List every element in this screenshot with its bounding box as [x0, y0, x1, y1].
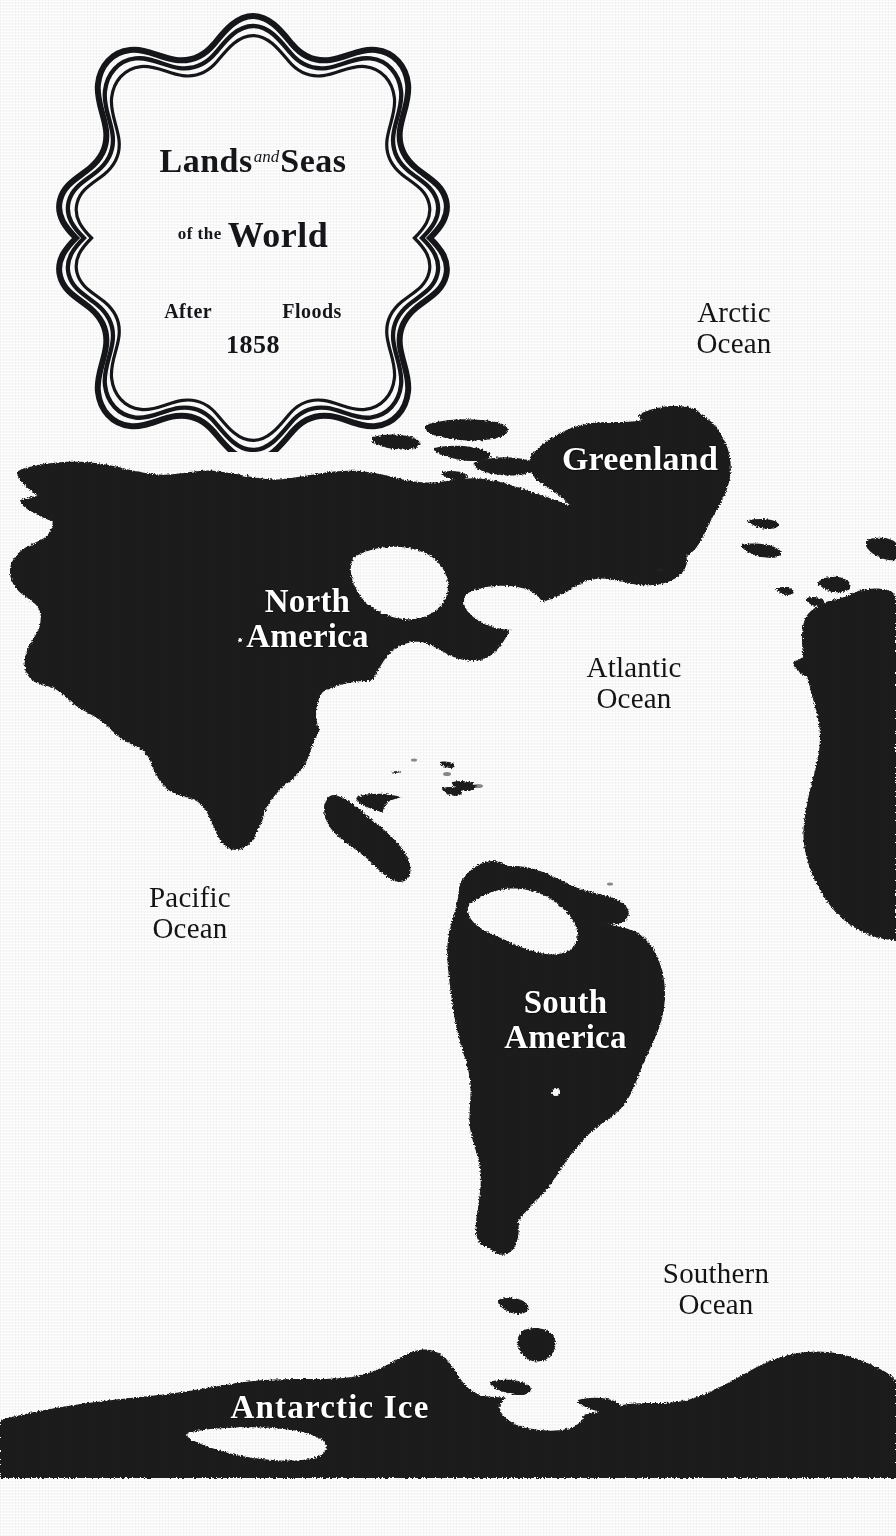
lake-fleck-5 [238, 638, 242, 642]
lake-fleck-2 [380, 722, 384, 726]
subtitle-after: After [164, 300, 212, 323]
map-plate: Arctic Ocean Atlantic Ocean Pacific Ocea… [0, 0, 896, 1536]
year-value: 1858 [226, 330, 280, 360]
cartouche-subtitle: AfterFloods [48, 300, 458, 323]
title-and: and [254, 147, 280, 166]
title-of-the: of the [178, 224, 222, 244]
cartouche-title-line-1: LandsandSeas [48, 142, 458, 180]
lake-fleck-4 [552, 1088, 560, 1096]
title-lands-initial: Lands [160, 142, 253, 179]
lake-fleck-3 [617, 887, 623, 893]
subtitle-floods: Floods [282, 300, 342, 323]
title-seas: Seas [280, 142, 346, 179]
title-world: World [228, 214, 329, 256]
title-cartouche: LandsandSeas of theWorld AfterFloods 185… [48, 2, 458, 452]
cartouche-title-line-2: of theWorld [48, 214, 458, 256]
cartouche-year: 1858 [48, 330, 458, 360]
lake-fleck-1 [367, 715, 373, 721]
